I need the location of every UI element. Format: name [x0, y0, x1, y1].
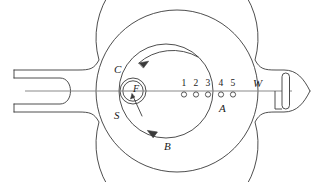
- top-flow-arrow: [139, 50, 198, 67]
- port-number-5: 5: [231, 79, 236, 89]
- envelope-upper-contour: [14, 0, 310, 91]
- label-A: A: [219, 103, 226, 114]
- port-marker-5[interactable]: [230, 92, 235, 97]
- window-slot: [282, 73, 290, 109]
- port-marker-3[interactable]: [205, 92, 210, 97]
- label-B: B: [164, 141, 171, 152]
- port-markers-group: [181, 92, 235, 97]
- label-W: W: [253, 78, 262, 89]
- label-C: C: [114, 64, 121, 75]
- port-number-2: 2: [194, 79, 199, 89]
- port-number-4: 4: [219, 79, 224, 89]
- label-F: F: [133, 84, 139, 94]
- port-number-1: 1: [182, 79, 187, 89]
- apparatus-diagram: [0, 0, 312, 182]
- port-number-3: 3: [206, 79, 211, 89]
- port-marker-1[interactable]: [181, 92, 186, 97]
- port-marker-4[interactable]: [218, 92, 223, 97]
- window-slot-connector: [275, 91, 282, 109]
- label-S: S: [114, 110, 120, 121]
- envelope-lower-contour: [14, 91, 310, 182]
- figure-canvas: C S F B A W 1 2 3 4 5: [0, 0, 312, 182]
- port-marker-2[interactable]: [193, 92, 198, 97]
